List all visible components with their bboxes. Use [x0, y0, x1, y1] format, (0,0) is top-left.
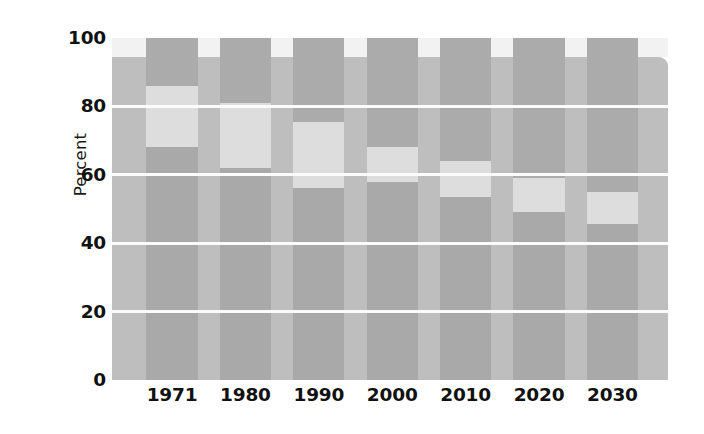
- x-tick-label: 2000: [367, 385, 418, 404]
- bottom-segment-1971[interactable]: [146, 147, 197, 380]
- bar-1971[interactable]: [146, 38, 197, 380]
- x-tick-label: 1980: [220, 385, 271, 404]
- y-tick-label: 100: [44, 29, 106, 48]
- bar-2010[interactable]: [440, 38, 491, 380]
- middle-segment-2020[interactable]: [513, 178, 564, 212]
- y-tick-label: 60: [44, 166, 106, 185]
- middle-segment-2010[interactable]: [440, 161, 491, 197]
- bar-1990[interactable]: [293, 38, 344, 380]
- y-tick-label: 80: [44, 97, 106, 116]
- middle-segment-1980[interactable]: [220, 103, 271, 168]
- middle-segment-1971[interactable]: [146, 86, 197, 148]
- bar-2020[interactable]: [513, 38, 564, 380]
- x-tick-label: 1990: [293, 385, 344, 404]
- x-tick-label: 2010: [440, 385, 491, 404]
- y-tick-label: 40: [44, 234, 106, 253]
- middle-segment-2030[interactable]: [587, 192, 638, 224]
- bar-2000[interactable]: [367, 38, 418, 380]
- bar-1980[interactable]: [220, 38, 271, 380]
- top-segment-2010[interactable]: [440, 38, 491, 161]
- bottom-segment-1980[interactable]: [220, 168, 271, 380]
- bars-layer: [112, 38, 668, 380]
- top-segment-2000[interactable]: [367, 38, 418, 147]
- top-segment-2030[interactable]: [587, 38, 638, 192]
- stacked-bar-chart: Percent 020406080100 1971198019902000201…: [0, 0, 704, 434]
- x-tick-label: 2030: [587, 385, 638, 404]
- bottom-segment-2010[interactable]: [440, 197, 491, 380]
- y-axis-tick-labels: 020406080100: [44, 0, 106, 434]
- bottom-segment-2020[interactable]: [513, 212, 564, 380]
- top-segment-1971[interactable]: [146, 38, 197, 86]
- middle-segment-1990[interactable]: [293, 122, 344, 189]
- bottom-segment-2000[interactable]: [367, 182, 418, 380]
- bottom-segment-1990[interactable]: [293, 188, 344, 380]
- y-tick-label: 20: [44, 302, 106, 321]
- middle-segment-2000[interactable]: [367, 147, 418, 181]
- plot-area: [112, 38, 668, 380]
- bar-2030[interactable]: [587, 38, 638, 380]
- x-tick-label: 1971: [147, 385, 198, 404]
- y-tick-label: 0: [44, 371, 106, 390]
- top-segment-1990[interactable]: [293, 38, 344, 122]
- x-axis-tick-labels: 1971198019902000201020202030: [112, 385, 668, 415]
- bottom-segment-2030[interactable]: [587, 224, 638, 380]
- top-segment-1980[interactable]: [220, 38, 271, 103]
- top-segment-2020[interactable]: [513, 38, 564, 178]
- x-tick-label: 2020: [514, 385, 565, 404]
